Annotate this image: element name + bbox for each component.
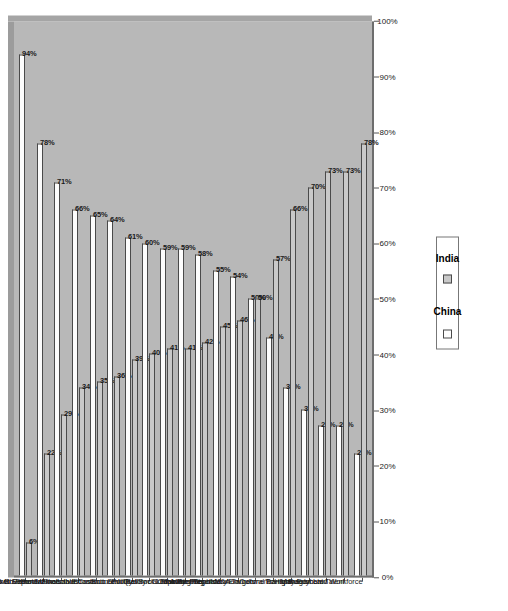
bar-group: 27%73% (316, 21, 334, 575)
bar-china: 30% (301, 409, 307, 575)
bar-group: 22%78% (351, 21, 369, 575)
value-tick-80: 80% (374, 124, 392, 140)
value-tick-90: 90% (374, 69, 392, 85)
value-tick-mark-icon (374, 577, 379, 578)
bar-group: 60%40% (140, 21, 158, 575)
value-axis: 0%10%20%30%40%50%60%70%80%90%100% (374, 21, 414, 577)
bar-china: 59% (160, 248, 166, 575)
bar-india: 40% (149, 353, 155, 575)
value-tick-label: 40% (379, 350, 395, 359)
value-tick-label: 60% (379, 239, 395, 248)
bar-china: 66% (72, 209, 78, 575)
bar-china: 64% (107, 220, 113, 575)
bar-china: 50% (248, 298, 254, 575)
bar-india: 29% (61, 414, 67, 575)
value-tick-10: 10% (374, 513, 392, 529)
bar-group: 61%39% (123, 21, 141, 575)
bar-india: 35% (97, 381, 103, 575)
bar-china: 71% (54, 182, 60, 575)
bar-group: 34%66% (281, 21, 299, 575)
value-tick-70: 70% (374, 180, 392, 196)
value-tick-mark-icon (374, 132, 379, 133)
value-tick-mark-icon (374, 521, 379, 522)
value-tick-label: 70% (379, 183, 395, 192)
bar-china: 55% (213, 270, 219, 575)
bar-group: 58%42% (193, 21, 211, 575)
value-tick-label: 0% (382, 573, 394, 582)
bar-india: 73% (325, 171, 331, 575)
bar-china: 22% (354, 453, 360, 575)
bar-china: 61% (125, 237, 131, 575)
value-tick-60: 60% (374, 235, 392, 251)
bar-india: 42% (202, 342, 208, 575)
bar-india: 70% (308, 187, 314, 575)
bar-india: 66% (290, 209, 296, 575)
value-tick-mark-icon (374, 410, 379, 411)
bar-group: 59%41% (158, 21, 176, 575)
value-tick-mark-icon (374, 76, 379, 77)
value-tick-label: 30% (379, 406, 395, 415)
bar-china: 65% (90, 215, 96, 575)
bar-china: 34% (283, 387, 289, 575)
bar-china: 27% (336, 425, 342, 575)
bar-group: 65%35% (87, 21, 105, 575)
value-tick-label: 50% (379, 295, 395, 304)
bar-india: 46% (237, 320, 243, 575)
bar-china: 27% (318, 425, 324, 575)
value-tick-20: 20% (374, 458, 392, 474)
chart-legend: China India (436, 236, 459, 349)
bar-india: 6% (26, 542, 32, 575)
value-tick-label: 10% (379, 517, 395, 526)
bar-china: 60% (142, 243, 148, 575)
legend-label-china: China (434, 306, 462, 317)
bar-india: 34% (79, 387, 85, 575)
bar-group: 43%57% (263, 21, 281, 575)
bar-group: 59%41% (175, 21, 193, 575)
bar-india: 41% (167, 348, 173, 575)
category-axis: Market SizeMarket Growth PotentialAccess… (14, 577, 374, 611)
bar-chart: Market SizeMarket Growth PotentialAccess… (0, 0, 508, 611)
bar-group: 50%50% (246, 21, 264, 575)
bar-series-container: 94%6%78%22%71%29%66%34%65%35%64%36%61%39… (14, 21, 372, 575)
bar-india: 41% (185, 348, 191, 575)
value-tick-label: 20% (379, 461, 395, 470)
value-tick-mark-icon (374, 299, 379, 300)
bar-india: 22% (44, 453, 50, 575)
bar-group: 55%45% (211, 21, 229, 575)
bar-group: 66%34% (70, 21, 88, 575)
bar-india: 57% (273, 259, 279, 575)
value-tick-100: 100% (374, 11, 392, 31)
legend-swatch-india-icon (443, 274, 452, 283)
bar-china: 94% (19, 54, 25, 575)
value-tick-30: 30% (374, 402, 392, 418)
bar-china: 78% (37, 143, 43, 575)
bar-group: 27%73% (334, 21, 352, 575)
value-tick-50: 50% (374, 291, 392, 307)
bar-india: 45% (220, 326, 226, 575)
value-tick-0: 0% (374, 571, 392, 583)
bar-group: 94%6% (17, 21, 35, 575)
legend-item-india: India (442, 247, 453, 283)
bar-china: 43% (266, 337, 272, 575)
bar-india: 78% (361, 143, 367, 575)
bar-india: 39% (132, 359, 138, 575)
value-tick-label: 80% (379, 128, 395, 137)
bar-china: 58% (195, 254, 201, 575)
value-tick-mark-icon (374, 465, 379, 466)
category-label-19: Highly Educated Workforce (353, 577, 371, 611)
bar-group: 71%29% (52, 21, 70, 575)
rotated-chart-wrapper: Market SizeMarket Growth PotentialAccess… (0, 0, 508, 611)
bar-group: 54%46% (228, 21, 246, 575)
bar-india: 73% (343, 171, 349, 575)
legend-label-india: India (436, 253, 459, 264)
bar-china: 54% (230, 276, 236, 575)
bar-india: 50% (255, 298, 261, 575)
value-tick-mark-icon (374, 243, 379, 244)
value-tick-label: 100% (377, 17, 397, 26)
category-label-text: Highly Educated Workforce (274, 577, 362, 586)
value-tick-mark-icon (374, 354, 379, 355)
bar-group: 64%36% (105, 21, 123, 575)
legend-swatch-china-icon (443, 329, 452, 338)
bar-group: 78%22% (35, 21, 53, 575)
bar-india: 36% (114, 376, 120, 575)
